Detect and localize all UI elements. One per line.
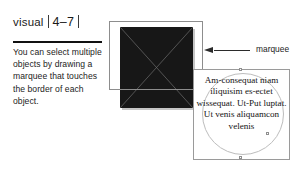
figure-header: visual 4–7 — [13, 13, 79, 29]
arrow-left-icon — [204, 47, 213, 53]
callout-leader-line — [214, 50, 250, 51]
marquee-selection-rectangle[interactable] — [109, 21, 203, 90]
resize-handle-top[interactable] — [239, 68, 242, 71]
caption-rule — [13, 41, 102, 43]
header-divider-right — [78, 15, 79, 28]
frame-body-text: Am-consequat niam iliquisim es-ectet wis… — [196, 75, 287, 132]
marquee-callout-label: marquee — [256, 44, 289, 54]
text-frame-object[interactable]: Am-consequat niam iliquisim es-ectet wis… — [193, 69, 290, 160]
figure-number: 4–7 — [53, 15, 75, 29]
header-divider-left — [48, 15, 49, 28]
figure-caption: You can select multiple objects by drawi… — [13, 46, 109, 107]
resize-handle-bottom-right[interactable] — [266, 132, 269, 135]
figure-label: visual — [13, 16, 44, 28]
figure-stage: visual 4–7 You can select multiple objec… — [0, 0, 300, 174]
marquee-callout: marquee — [203, 44, 297, 58]
resize-handle-bottom[interactable] — [239, 156, 242, 159]
